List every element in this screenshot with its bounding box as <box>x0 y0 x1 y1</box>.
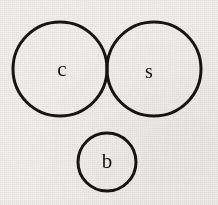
circle-s[interactable] <box>107 22 201 116</box>
diagram-canvas: c s b <box>0 0 218 205</box>
circle-label-c: c <box>57 57 66 81</box>
circle-label-b: b <box>102 149 113 173</box>
circle-label-s: s <box>145 60 153 82</box>
circle-diagram: c s b <box>0 0 218 205</box>
